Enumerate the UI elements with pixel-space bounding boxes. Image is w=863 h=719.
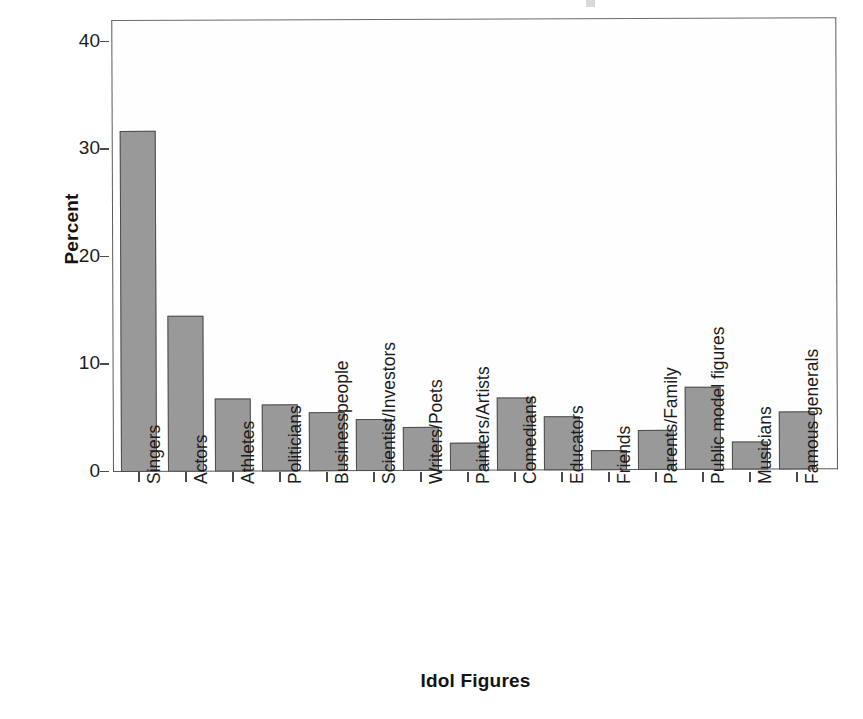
y-axis-title: Percent [61,159,83,299]
x-axis-category-label: Politicians [287,405,305,484]
x-axis-category-label: Educators [569,405,587,484]
y-axis-tick-mark [100,256,109,257]
x-axis-category-label: Comedians [522,395,540,484]
x-axis-tick-mark [608,472,609,482]
x-axis-tick-mark [561,472,562,482]
x-axis-tick-mark [702,472,703,482]
x-axis-tick-mark [749,472,750,482]
x-axis-tick-mark [655,472,656,482]
y-axis-tick-label: 40 [48,31,100,50]
x-axis-category-label: Athletes [240,421,258,484]
x-axis-tick-mark [420,472,421,482]
x-axis-tick-mark [138,472,139,482]
x-axis-category-label: Singers [146,425,164,484]
x-axis-title: Idol Figures [113,670,838,692]
scan-artifact [586,0,595,7]
x-axis-tick-mark [326,472,327,482]
x-axis-category-label: Painters/Artists [475,366,493,484]
x-axis-category-label: Friends [616,426,634,484]
y-axis-tick-label: 10 [48,353,100,372]
y-axis-tick-mark [100,471,109,472]
y-axis-tick-mark [100,148,109,149]
x-axis-tick-mark [467,472,468,482]
x-axis-category-label: Actors [193,434,211,484]
x-axis-category-label: Famous generals [804,349,822,484]
bar [120,131,157,472]
y-axis-tick-label: 20 [48,246,100,265]
x-axis-category-label: Businesspeople [334,360,352,484]
x-axis-category-labels: SingersActorsAthletesPoliticiansBusiness… [113,484,838,664]
x-axis-tick-mark [279,472,280,482]
bar-chart: Percent 010203040 SingersActorsAthletesP… [0,0,863,719]
x-axis-category-label: Parents/Family [663,367,681,484]
x-axis-tick-mark [796,472,797,482]
x-axis-category-label: Public model figures [710,326,728,484]
x-axis-tick-mark [373,472,374,482]
y-axis-tick-mark [100,41,109,42]
x-axis-tick-mark [232,472,233,482]
x-axis-category-label: Musicians [757,406,775,484]
x-axis-category-label: Writers/Poets [428,379,446,484]
y-axis-tick-label: 30 [48,138,100,157]
x-axis-category-label: Scientist/Investors [381,342,399,484]
x-axis-tick-mark [185,472,186,482]
x-axis-tick-mark [514,472,515,482]
y-axis-tick-mark [100,363,109,364]
y-axis-tick-label: 0 [48,461,100,480]
